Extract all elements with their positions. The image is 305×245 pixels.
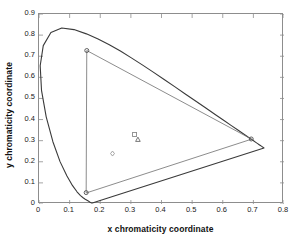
x-tick-label: 0.8 — [268, 206, 298, 214]
marker-white-point-square — [133, 133, 137, 137]
x-tick-label: 0.5 — [176, 206, 206, 214]
x-tick-label: 0.2 — [84, 206, 114, 214]
y-axis-title: y chromaticity coordinate — [4, 20, 14, 210]
data-markers-group — [84, 49, 253, 195]
x-tick-label: 0.7 — [237, 206, 267, 214]
y-tick-label: 0.9 — [5, 9, 35, 17]
plot-area — [38, 13, 283, 203]
marker-white-point-triangle — [136, 137, 141, 141]
x-tick-label: 0.3 — [115, 206, 145, 214]
x-tick-label: 0 — [23, 206, 53, 214]
marker-white-point-diamond — [111, 151, 115, 156]
x-tick-label: 0.1 — [54, 206, 84, 214]
x-tick-label: 0.4 — [146, 206, 176, 214]
chromaticity-diagram-figure: 00.10.20.30.40.50.60.70.80.9 00.10.20.30… — [0, 0, 305, 245]
x-axis-title: x chromaticity coordinate — [38, 224, 283, 234]
x-axis-tick-labels: 00.10.20.30.40.50.60.70.8 — [38, 206, 283, 218]
axis-tick-marks — [39, 14, 284, 204]
data-series-group — [40, 28, 264, 203]
x-tick-label: 0.6 — [207, 206, 237, 214]
plot-canvas — [39, 14, 284, 204]
y-axis-title-wrapper: y chromaticity coordinate — [4, 20, 18, 210]
